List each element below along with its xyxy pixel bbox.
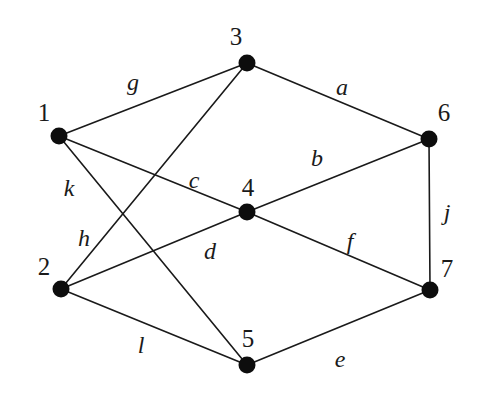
vertex-label-5: 5 [242,326,255,351]
edge-label-a: a [336,75,348,99]
vertex-5 [239,357,256,374]
vertex-label-3: 3 [230,24,243,49]
edge-h [61,63,247,289]
edge-label-b: b [311,146,323,170]
edge-label-l: l [138,333,145,357]
edge-label-k: k [64,176,75,200]
edge-label-g: g [127,70,139,94]
vertex-label-6: 6 [438,100,451,125]
vertex-label-2: 2 [38,254,51,279]
edge-label-h: h [78,226,90,250]
vertex-4 [239,204,256,221]
graph-diagram: abcdefghjkl1234567 [0,0,482,394]
vertex-label-1: 1 [38,100,51,125]
edge-label-c: c [189,168,200,192]
edge-g [59,63,247,136]
edge-label-f: f [347,229,354,253]
vertex-label-4: 4 [242,175,255,200]
edge-label-j: j [444,200,451,224]
edge-b [247,139,429,212]
vertex-7 [422,282,439,299]
edge-label-e: e [335,347,346,371]
vertex-6 [421,131,438,148]
vertex-1 [51,128,68,145]
edge-label-d: d [204,239,216,263]
edge-f [247,212,430,290]
vertex-3 [239,55,256,72]
edge-j [429,139,430,290]
vertex-label-7: 7 [441,256,454,281]
vertex-2 [53,281,70,298]
edge-c [59,136,247,212]
edge-l [61,289,247,365]
